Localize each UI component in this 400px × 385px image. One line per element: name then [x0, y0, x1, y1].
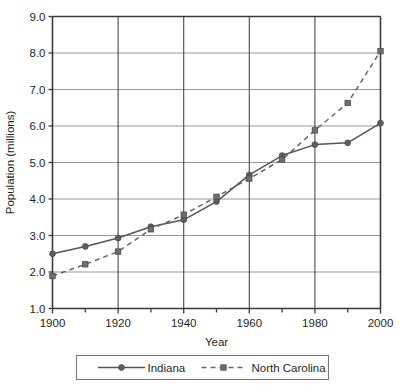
data-point-marker-indiana: [345, 140, 351, 146]
y-tick-label: 5.0: [30, 157, 46, 169]
y-tick-label: 1.0: [30, 303, 46, 315]
data-point-marker-north-carolina: [378, 48, 383, 53]
data-point-marker-north-carolina: [247, 176, 252, 181]
y-tick-label: 4.0: [30, 193, 46, 205]
y-tick-label: 2.0: [30, 266, 46, 278]
data-point-marker-north-carolina: [115, 249, 120, 254]
legend-marker-north-carolina: [221, 365, 226, 370]
tick-marks-layer: [49, 17, 381, 314]
y-tick-label: 9.0: [30, 11, 46, 23]
data-point-marker-north-carolina: [312, 128, 317, 133]
x-tick-label: 1980: [302, 317, 328, 329]
chart-canvas: 1.02.03.04.05.06.07.08.09.01900192019401…: [0, 0, 400, 385]
legend-label-indiana: Indiana: [148, 362, 186, 374]
series-layer: [50, 48, 384, 278]
data-point-marker-north-carolina: [214, 194, 219, 199]
x-tick-label: 1920: [105, 317, 131, 329]
y-tick-label: 8.0: [30, 47, 46, 59]
series-line-indiana: [53, 123, 381, 254]
grid-layer: [53, 17, 381, 309]
data-point-marker-indiana: [312, 142, 318, 148]
x-tick-label: 2000: [368, 317, 394, 329]
data-point-marker-indiana: [115, 235, 121, 241]
y-tick-label: 3.0: [30, 230, 46, 242]
y-tick-label: 6.0: [30, 120, 46, 132]
population-line-chart: 1.02.03.04.05.06.07.08.09.01900192019401…: [0, 0, 400, 385]
data-point-marker-north-carolina: [345, 100, 350, 105]
x-axis-title: Year: [205, 336, 228, 348]
data-point-marker-indiana: [82, 244, 88, 250]
x-tick-label: 1940: [171, 317, 197, 329]
legend-marker-indiana: [119, 365, 125, 371]
data-point-marker-north-carolina: [279, 157, 284, 162]
data-point-marker-north-carolina: [181, 212, 186, 217]
x-tick-label: 1960: [237, 317, 263, 329]
tick-labels-layer: 1.02.03.04.05.06.07.08.09.01900192019401…: [30, 11, 394, 329]
y-tick-label: 7.0: [30, 84, 46, 96]
y-axis-title: Population (millions): [4, 111, 16, 215]
x-tick-label: 1900: [40, 317, 66, 329]
legend-label-north-carolina: North Carolina: [252, 362, 327, 374]
legend: IndianaNorth Carolina: [77, 356, 329, 380]
data-point-marker-indiana: [378, 120, 384, 126]
data-point-marker-north-carolina: [50, 273, 55, 278]
data-point-marker-north-carolina: [83, 262, 88, 267]
data-point-marker-north-carolina: [148, 227, 153, 232]
data-point-marker-indiana: [50, 251, 56, 257]
